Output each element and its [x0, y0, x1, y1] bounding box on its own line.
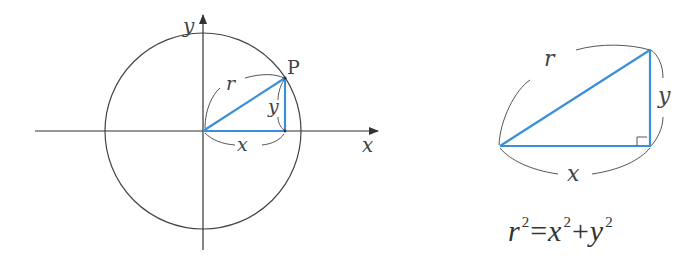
point-p-label: P [287, 56, 300, 78]
foot-dot [284, 130, 287, 133]
r-brace [499, 45, 650, 145]
pythagorean-formula: r2=x2+y2 [508, 214, 613, 248]
vertical-leg-label: y [657, 83, 671, 108]
horizontal-leg-label: x [237, 133, 248, 155]
formula-equals: = [530, 214, 547, 247]
hypotenuse-label: r [544, 46, 556, 71]
right-angle-marker [637, 137, 647, 146]
right-triangle [500, 50, 650, 146]
unit-circle-diagram: y x P r y x [35, 14, 378, 250]
right-triangle-diagram: r y x [499, 45, 671, 186]
horizontal-leg-label: x [567, 161, 580, 186]
formula-plus: + [572, 214, 589, 247]
formula-term1-exp: 2 [563, 214, 571, 230]
formula-term1-var: x [548, 214, 561, 247]
y-axis-label: y [182, 14, 195, 38]
formula-term2-exp: 2 [605, 214, 613, 230]
formula-term2-var: y [590, 214, 603, 247]
hypotenuse-label: r [226, 72, 237, 94]
formula-lhs-var: r [508, 214, 520, 247]
vertical-leg-label: y [267, 95, 279, 117]
y-brace [278, 80, 284, 130]
formula-lhs-exp: 2 [522, 214, 530, 230]
x-axis-label: x [362, 133, 373, 157]
